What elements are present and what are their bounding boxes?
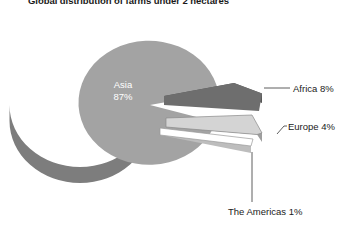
leader-line-europe — [277, 126, 287, 134]
slice-label-asia-value: 87% — [93, 91, 153, 103]
slice-asia — [10, 41, 219, 183]
pie-chart: Global distribution of farms under 2 hec… — [0, 0, 348, 226]
slice-callout-americas: The Americas 1% — [228, 206, 302, 217]
slice-callout-europe: Europe 4% — [288, 121, 335, 132]
slice-label-asia: Asia 87% — [93, 79, 153, 102]
slice-label-asia-name: Asia — [93, 79, 153, 91]
pie-graphic — [0, 0, 348, 226]
slice-callout-africa: Africa 8% — [293, 83, 334, 94]
